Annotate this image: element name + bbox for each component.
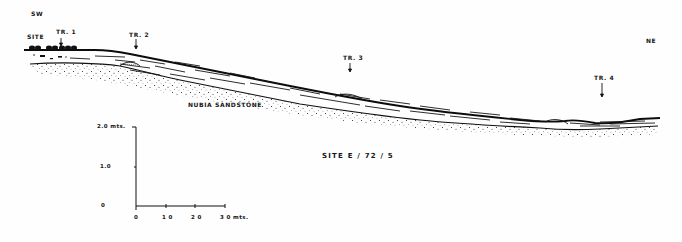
figure-title: SITE E / 72 / 5 <box>322 153 394 160</box>
trench-4-label: TR. 4 <box>594 75 614 81</box>
scale-h-tick-20: 2 0 <box>191 215 202 221</box>
site-shrubs <box>29 46 77 60</box>
scale-bar <box>132 127 225 210</box>
trench-1-label: TR. 1 <box>56 29 76 35</box>
direction-ne-label: NE <box>646 38 656 44</box>
nubia-sandstone-label: NUBIA SANDSTONE <box>188 102 262 108</box>
scale-h-tick-30: 3 0 mts. <box>220 215 248 221</box>
trench-2-label: TR. 2 <box>129 32 149 38</box>
scale-v-tick-0: 0 <box>101 203 105 209</box>
scale-v-tick-1: 1.0 <box>100 164 111 170</box>
scale-h-tick-10: 1 0 <box>162 215 173 221</box>
scale-v-tick-2: 2.0 mts. <box>97 124 126 130</box>
scale-h-tick-0: 0 <box>134 215 138 221</box>
stratigraphic-profile-figure: SW NE SITE TR. 1 TR. 2 TR. 3 TR. 4 NUBIA… <box>0 0 682 242</box>
site-label: SITE <box>27 34 44 40</box>
trench-3-label: TR. 3 <box>343 55 363 61</box>
direction-sw-label: SW <box>31 11 43 17</box>
